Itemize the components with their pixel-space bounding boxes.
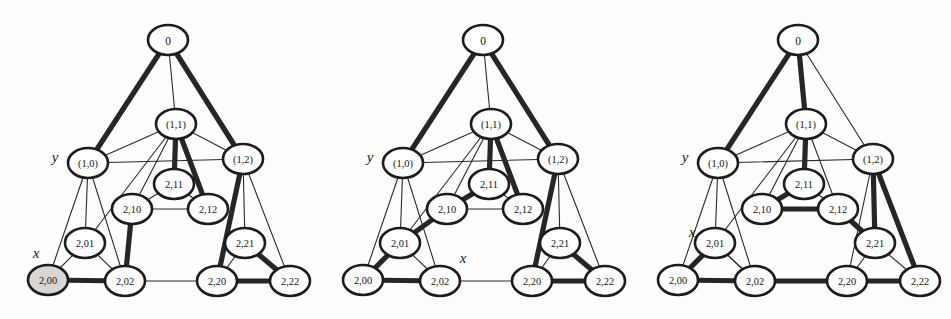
node-circle (463, 25, 503, 55)
axis-label-y: y (365, 149, 374, 165)
graph-node[interactable]: 2,10 (112, 194, 152, 224)
graph-node[interactable]: (1,0) (698, 148, 738, 178)
node-circle (420, 266, 460, 296)
axis-label-y: y (50, 149, 59, 165)
node-circle (742, 194, 782, 224)
node-circle (28, 265, 68, 295)
panel-3: 0(1,1)(1,0)(1,2)2,112,102,122,012,212,00… (658, 25, 940, 296)
graph-node[interactable]: 2,21 (225, 228, 265, 258)
graph-edge-thin (798, 40, 873, 159)
graph-node[interactable]: 2,20 (197, 266, 237, 296)
node-circle (223, 144, 263, 174)
graph-diagram-canvas: 0(1,1)(1,0)(1,2)2,112,102,122,012,212,00… (0, 0, 951, 319)
graph-node[interactable]: 2,10 (427, 194, 467, 224)
node-circle (900, 266, 940, 296)
node-circle (469, 169, 509, 199)
node-circle (270, 266, 310, 296)
axis-label-x: x (459, 250, 467, 266)
graph-node[interactable]: 2,12 (188, 194, 228, 224)
graph-edge-thin (48, 163, 88, 280)
graph-node[interactable]: 2,22 (585, 266, 625, 296)
graph-node[interactable]: 2,21 (540, 228, 580, 258)
node-circle (156, 109, 196, 139)
graph-node[interactable]: 2,11 (154, 169, 194, 199)
node-circle (68, 148, 108, 178)
graph-edge-thick (873, 159, 920, 281)
graph-node[interactable]: 2,11 (784, 169, 824, 199)
graph-node[interactable]: 2,02 (420, 266, 460, 296)
graph-node[interactable]: (1,2) (853, 144, 893, 174)
graph-node[interactable]: 2,12 (818, 194, 858, 224)
graph-edge-thin (403, 159, 558, 163)
node-circle (503, 194, 543, 224)
panel-1: 0(1,1)(1,0)(1,2)2,112,102,122,012,212,00… (28, 25, 310, 296)
node-circle (538, 144, 578, 174)
graph-node[interactable]: 0 (778, 25, 818, 55)
graph-node[interactable]: 2,01 (380, 228, 420, 258)
graph-node[interactable]: 2,00 (28, 265, 68, 295)
graph-node[interactable]: 2,21 (855, 228, 895, 258)
graph-node[interactable]: 2,22 (900, 266, 940, 296)
graph-edge-thick (88, 40, 168, 163)
node-circle (585, 266, 625, 296)
node-circle (735, 266, 775, 296)
graph-node[interactable]: 0 (463, 25, 503, 55)
graph-node[interactable]: (1,0) (383, 148, 423, 178)
node-circle (784, 169, 824, 199)
node-circle (786, 109, 826, 139)
graph-node[interactable]: 2,12 (503, 194, 543, 224)
graph-node[interactable]: (1,0) (68, 148, 108, 178)
node-circle (818, 194, 858, 224)
graph-edge-thin (718, 159, 873, 163)
axis-label-y: y (680, 149, 689, 165)
graph-edge-thick (403, 40, 483, 163)
graph-node[interactable]: (1,1) (786, 109, 826, 139)
graph-edge-thick (718, 40, 798, 163)
graph-node[interactable]: 2,22 (270, 266, 310, 296)
node-circle (698, 148, 738, 178)
node-circle (343, 265, 383, 295)
graph-node[interactable]: (1,1) (156, 109, 196, 139)
graph-node[interactable]: (1,2) (538, 144, 578, 174)
graph-edge-thin (88, 159, 243, 163)
graph-node[interactable]: 0 (148, 25, 188, 55)
node-circle (540, 228, 580, 258)
graph-node[interactable]: 2,20 (512, 266, 552, 296)
node-circle (112, 194, 152, 224)
node-circle (855, 228, 895, 258)
graph-node[interactable]: 2,11 (469, 169, 509, 199)
axis-label-x: x (688, 224, 696, 240)
node-circle (225, 228, 265, 258)
graph-edge-thick (168, 40, 243, 159)
node-circle (383, 148, 423, 178)
node-circle (778, 25, 818, 55)
node-circle (65, 228, 105, 258)
node-circle (471, 109, 511, 139)
graph-node[interactable]: 2,10 (742, 194, 782, 224)
node-circle (188, 194, 228, 224)
node-circle (695, 228, 735, 258)
axis-label-x: x (32, 245, 40, 261)
graph-node[interactable]: 2,20 (827, 266, 867, 296)
graph-node[interactable]: 2,00 (343, 265, 383, 295)
node-circle (827, 266, 867, 296)
graph-node[interactable]: 2,01 (695, 228, 735, 258)
node-circle (154, 169, 194, 199)
graph-node[interactable]: 2,00 (658, 265, 698, 295)
node-circle (658, 265, 698, 295)
node-circle (853, 144, 893, 174)
node-circle (148, 25, 188, 55)
node-circle (105, 266, 145, 296)
node-circle (197, 266, 237, 296)
node-circle (512, 266, 552, 296)
graph-node[interactable]: (1,1) (471, 109, 511, 139)
graph-edge-thick (483, 40, 558, 159)
node-circle (427, 194, 467, 224)
graph-node[interactable]: 2,01 (65, 228, 105, 258)
graph-node[interactable]: 2,02 (735, 266, 775, 296)
graph-node[interactable]: (1,2) (223, 144, 263, 174)
panel-2: 0(1,1)(1,0)(1,2)2,112,102,122,012,212,00… (343, 25, 625, 296)
node-circle (380, 228, 420, 258)
graph-node[interactable]: 2,02 (105, 266, 145, 296)
figure-root: 0(1,1)(1,0)(1,2)2,112,102,122,012,212,00… (0, 0, 951, 319)
